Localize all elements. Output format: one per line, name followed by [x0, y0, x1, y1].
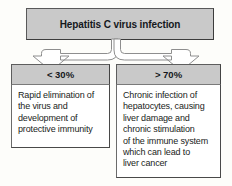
- root-node-hepatitis-c-virus-infection: Hepatitis C virus infection: [26, 8, 214, 40]
- outcome-header-acute-clearance: < 30%: [11, 64, 110, 85]
- outcome-description-chronic-infection: Chronic infection of hepatocytes, causin…: [123, 90, 215, 170]
- outcome-body-chronic-infection: Chronic infection of hepatocytes, causin…: [116, 85, 221, 178]
- outcome-description-acute-clearance: Rapid elimination of the virus and devel…: [18, 90, 104, 136]
- outcome-percentage-acute-clearance: < 30%: [47, 69, 74, 80]
- outcome-body-acute-clearance: Rapid elimination of the virus and devel…: [11, 85, 110, 148]
- root-node-label: Hepatitis C virus infection: [60, 19, 181, 30]
- outcome-header-chronic-infection: > 70%: [116, 64, 221, 85]
- outcome-node-chronic-infection: > 70% Chronic infection of hepatocytes, …: [116, 64, 221, 178]
- outcome-percentage-chronic-infection: > 70%: [155, 69, 182, 80]
- flowchart-diagram: Hepatitis C virus infection < 30% Rapid …: [0, 0, 232, 186]
- outcome-node-acute-clearance: < 30% Rapid elimination of the virus and…: [11, 64, 110, 148]
